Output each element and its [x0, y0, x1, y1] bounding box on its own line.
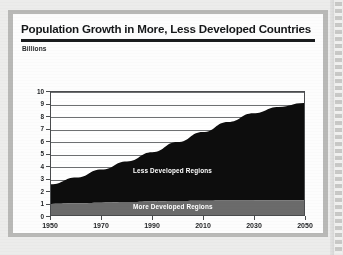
- x-axis-tick: [305, 216, 306, 220]
- y-axis-tick-label: 7: [28, 125, 44, 132]
- plot-area: [50, 91, 305, 216]
- x-axis-tick-label: 1970: [93, 222, 109, 229]
- chart-figure: Population Growth in More, Less Develope…: [0, 0, 343, 255]
- page-title: Population Growth in More, Less Develope…: [21, 22, 316, 35]
- y-axis-tick-label: 6: [28, 138, 44, 145]
- x-axis-tick-label: 1990: [144, 222, 160, 229]
- x-axis-tick: [203, 216, 204, 220]
- scan-perforation-strip: [335, 2, 342, 253]
- series-label-less-developed: Less Developed Regions: [133, 167, 212, 174]
- y-axis-tick-label: 4: [28, 163, 44, 170]
- x-axis-tick: [254, 216, 255, 220]
- x-axis-tick: [152, 216, 153, 220]
- area-chart-svg: [51, 92, 304, 215]
- scan-edge-shadow: [330, 0, 334, 255]
- x-axis-tick-label: 2050: [297, 222, 313, 229]
- x-axis-tick: [101, 216, 102, 220]
- y-axis-tick-label: 0: [28, 213, 44, 220]
- x-axis-tick-label: 1950: [42, 222, 58, 229]
- stacked-area-series: [51, 92, 304, 215]
- y-axis-tick-label: 5: [28, 150, 44, 157]
- axis-unit-label: Billions: [22, 45, 47, 52]
- title-rule-divider: [21, 39, 315, 42]
- y-axis-tick-label: 9: [28, 100, 44, 107]
- series-less-developed-regions: [51, 103, 304, 204]
- y-axis-tick-label: 3: [28, 175, 44, 182]
- y-axis-tick-label: 2: [28, 188, 44, 195]
- x-axis-tick: [50, 216, 51, 220]
- series-label-more-developed: More Developed Regions: [133, 203, 213, 210]
- y-axis-tick-label: 8: [28, 113, 44, 120]
- y-axis-tick-label: 1: [28, 200, 44, 207]
- y-axis-tick-label: 10: [28, 88, 44, 95]
- x-axis-tick-label: 2030: [246, 222, 262, 229]
- x-axis-tick-label: 2010: [195, 222, 211, 229]
